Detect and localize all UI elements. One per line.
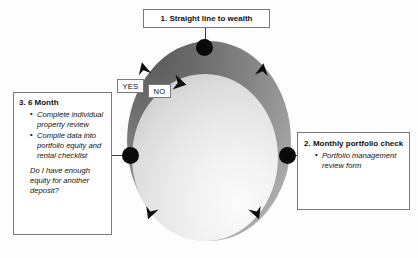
node-left[interactable]	[122, 147, 139, 164]
box-right-bullet-list: Portfolio management review form	[304, 151, 404, 171]
diagram-canvas: 1. Straight line to wealth 2. Monthly po…	[0, 0, 418, 258]
box-top-title: 1. Straight line to wealth	[160, 14, 252, 24]
label-yes[interactable]: YES	[117, 79, 144, 93]
label-no[interactable]: NO	[148, 84, 171, 98]
box-left-title: 3. 6 Month	[19, 98, 107, 108]
list-item: Compile data into portfolio equity and r…	[30, 131, 107, 161]
label-no-text: NO	[154, 87, 166, 96]
list-item: Portfolio management review form	[315, 151, 404, 171]
box-monthly-portfolio-check[interactable]: 2. Monthly portfolio check Portfolio man…	[297, 132, 410, 210]
box-left-bullet-list: Complete individual property review Comp…	[19, 110, 107, 161]
box-straight-line-to-wealth[interactable]: 1. Straight line to wealth	[143, 9, 270, 28]
box-right-title: 2. Monthly portfolio check	[304, 139, 404, 149]
box-left-question: Do I have enough equity for another depo…	[19, 166, 107, 196]
arrow-inner-left-icon	[170, 73, 190, 93]
list-item: Complete individual property review	[30, 110, 107, 130]
node-right[interactable]	[279, 147, 296, 164]
node-top[interactable]	[196, 39, 213, 56]
label-yes-text: YES	[123, 82, 139, 91]
box-six-month-review[interactable]: 3. 6 Month Complete individual property …	[13, 92, 112, 235]
